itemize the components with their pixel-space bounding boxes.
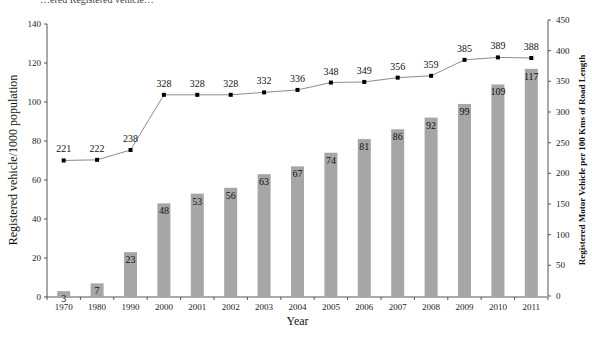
line-marker (195, 93, 199, 97)
bar (525, 69, 538, 297)
bar-value-label: 3 (61, 293, 66, 304)
bar-value-label: 56 (226, 190, 236, 201)
x-tick-label: 2001 (188, 302, 206, 312)
x-tick-label: 1990 (122, 302, 141, 312)
bar (425, 118, 438, 297)
line-marker (396, 76, 400, 80)
line-marker (229, 93, 233, 97)
left-tick-label: 80 (32, 136, 42, 146)
right-tick-label: 0 (556, 291, 561, 301)
bar (258, 174, 271, 297)
bar-value-label: 117 (524, 71, 539, 82)
line-marker (529, 56, 533, 60)
x-tick-label: 2005 (322, 302, 341, 312)
line-marker (329, 81, 333, 85)
right-tick-label: 50 (556, 260, 566, 270)
x-tick-label: 2006 (355, 302, 374, 312)
line-marker (162, 93, 166, 97)
right-tick-label: 400 (556, 46, 570, 56)
left-tick-label: 120 (28, 58, 42, 68)
left-tick-label: 100 (28, 97, 42, 107)
x-tick-label: 2002 (222, 302, 240, 312)
bar-value-label: 48 (159, 205, 169, 216)
line-marker (429, 74, 433, 78)
bar-value-label: 99 (460, 106, 470, 117)
right-tick-label: 250 (556, 138, 570, 148)
x-axis-title: Year (286, 314, 308, 328)
line-value-label: 328 (156, 78, 171, 89)
line-marker (129, 148, 133, 152)
line-value-label: 389 (490, 40, 505, 51)
bar-value-label: 7 (95, 285, 100, 296)
x-tick-label: 2007 (389, 302, 408, 312)
bar (291, 166, 304, 297)
right-axis-title: Registered Motor Vehicle per 100 Kms of … (577, 55, 587, 266)
right-tick-label: 150 (556, 199, 570, 209)
x-tick-label: 1980 (88, 302, 107, 312)
x-tick-label: 2003 (255, 302, 274, 312)
bar-value-label: 63 (259, 176, 269, 187)
line-value-label: 385 (457, 43, 472, 54)
bar-value-label: 86 (393, 131, 403, 142)
bar (324, 153, 337, 297)
bar-value-label: 74 (326, 155, 336, 166)
bar-value-label: 109 (490, 86, 505, 97)
line-value-label: 328 (223, 78, 238, 89)
bar-value-label: 67 (293, 168, 303, 179)
left-tick-label: 20 (32, 253, 42, 263)
x-tick-label: 2009 (456, 302, 475, 312)
line-marker (62, 158, 66, 162)
line-value-label: 328 (190, 78, 205, 89)
left-tick-label: 40 (32, 214, 42, 224)
x-tick-label: 2000 (155, 302, 174, 312)
bar (157, 203, 170, 297)
left-axis-title: Registered vehicle/1000 population (6, 75, 20, 246)
x-tick-label: 2008 (422, 302, 441, 312)
x-tick-label: 2010 (489, 302, 508, 312)
bar-value-label: 23 (126, 254, 136, 265)
left-tick-label: 140 (28, 19, 42, 29)
line-value-label: 332 (257, 75, 272, 86)
bar (224, 188, 237, 297)
bar (491, 84, 504, 297)
line-value-label: 221 (56, 143, 71, 154)
header-fragment: …ered Registered vehicle… (40, 0, 154, 5)
right-tick-label: 200 (556, 168, 570, 178)
left-tick-label: 0 (37, 292, 42, 302)
bar (458, 104, 471, 297)
right-tick-label: 100 (556, 230, 570, 240)
x-tick-label: 2011 (522, 302, 540, 312)
line-marker (362, 80, 366, 84)
dual-axis-chart: …ered Registered vehicle…020406080100120… (0, 0, 592, 339)
line-value-label: 348 (323, 66, 338, 77)
line-marker (496, 55, 500, 59)
right-tick-label: 450 (556, 15, 570, 25)
line-value-label: 388 (524, 41, 539, 52)
right-tick-label: 300 (556, 107, 570, 117)
x-tick-label: 2004 (289, 302, 308, 312)
line-marker (296, 88, 300, 92)
line-value-label: 356 (390, 61, 405, 72)
bar (191, 194, 204, 297)
bar-value-label: 81 (359, 141, 369, 152)
line-value-label: 359 (424, 59, 439, 70)
bar-value-label: 92 (426, 120, 436, 131)
bar (358, 139, 371, 297)
line-marker (463, 58, 467, 62)
line-marker (262, 90, 266, 94)
line-value-label: 238 (123, 133, 138, 144)
line-value-label: 336 (290, 73, 305, 84)
bar (391, 129, 404, 297)
line-marker (95, 158, 99, 162)
right-tick-label: 350 (556, 76, 570, 86)
line-value-label: 222 (90, 143, 105, 154)
left-tick-label: 60 (32, 175, 42, 185)
bar-value-label: 53 (192, 196, 202, 207)
line-value-label: 349 (357, 65, 372, 76)
